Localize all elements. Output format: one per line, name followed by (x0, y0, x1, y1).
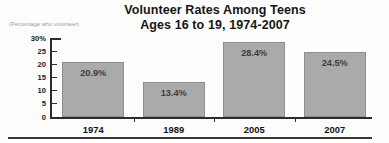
x-axis-tick (134, 119, 135, 122)
bar-value-label: 24.5% (305, 58, 365, 68)
y-axis-labels: 051015202530% (0, 38, 46, 119)
x-axis-category-label-1974: 1974 (53, 124, 133, 135)
x-axis-category-label-2007: 2007 (295, 124, 375, 135)
bottom-divider (8, 137, 372, 139)
bar-value-label: 20.9% (63, 68, 123, 78)
y-axis-tick (52, 51, 57, 52)
y-axis-tick (52, 117, 57, 118)
y-axis-tick (52, 103, 57, 104)
x-axis-tick (214, 119, 215, 122)
x-axis-category-label-2005: 2005 (214, 124, 294, 135)
bar-1974: 20.9% (62, 62, 124, 117)
y-axis-tick-label: 15 (38, 73, 46, 82)
bar-1989: 13.4% (143, 82, 205, 117)
page-title: Volunteer Rates Among Teens (70, 3, 360, 18)
y-axis-tick-label: 0 (42, 113, 46, 122)
y-axis-tick-label: 30% (31, 34, 46, 43)
y-axis-tick (52, 64, 57, 65)
x-axis-category-label-1989: 1989 (134, 124, 214, 135)
y-axis-tick-label: 25 (38, 47, 46, 56)
y-axis-tick (52, 90, 57, 91)
y-axis-tick (52, 77, 57, 78)
bar-value-label: 13.4% (144, 88, 204, 98)
bar-value-label: 28.4% (224, 48, 284, 58)
y-axis-tick (52, 38, 57, 39)
x-axis-line (50, 117, 372, 119)
plot-area: 20.9%13.4%28.4%24.5% (50, 38, 372, 119)
x-axis-tick (295, 119, 296, 122)
chart-subtitle: Ages 16 to 19, 1974-2007 (70, 18, 360, 33)
bar-2005: 28.4% (223, 42, 285, 117)
chart-title-block: Volunteer Rates Among Teens Ages 16 to 1… (70, 3, 360, 32)
axis-note-label: (Percentage who volunteer) (9, 21, 79, 27)
bar-2007: 24.5% (304, 52, 366, 117)
y-axis-tick-label: 5 (42, 99, 46, 108)
y-axis-tick-label: 10 (38, 86, 46, 95)
volunteer-rates-bar-chart: Volunteer Rates Among Teens Ages 16 to 1… (0, 0, 389, 143)
y-axis-tick-label: 20 (38, 60, 46, 69)
